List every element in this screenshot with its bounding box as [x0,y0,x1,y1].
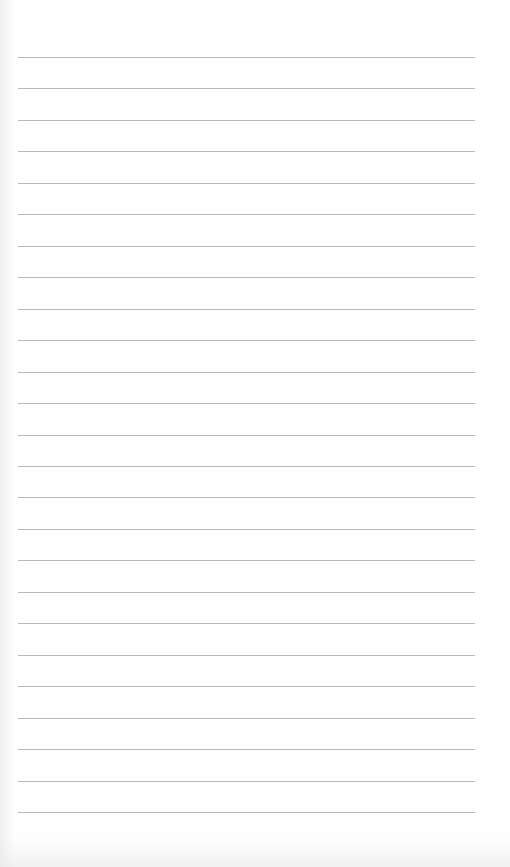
ruled-line [18,214,475,215]
ruled-line [18,372,475,373]
ruled-line [18,718,475,719]
ruled-line [18,88,475,89]
lined-paper-sheet [0,0,510,867]
paper-edge-shadow [0,0,14,867]
ruled-line [18,560,475,561]
ruled-line [18,529,475,530]
ruled-line [18,340,475,341]
ruled-line [18,246,475,247]
ruled-line [18,623,475,624]
ruled-line [18,151,475,152]
ruled-line [18,749,475,750]
ruled-line [18,120,475,121]
ruled-line [18,655,475,656]
ruled-line [18,57,475,58]
ruled-line [18,309,475,310]
ruled-line [18,812,475,813]
ruled-line [18,497,475,498]
ruled-line [18,686,475,687]
ruled-line [18,277,475,278]
ruled-line [18,183,475,184]
ruled-line [18,403,475,404]
ruled-line [18,435,475,436]
ruled-line [18,466,475,467]
ruled-line [18,592,475,593]
ruled-line [18,781,475,782]
